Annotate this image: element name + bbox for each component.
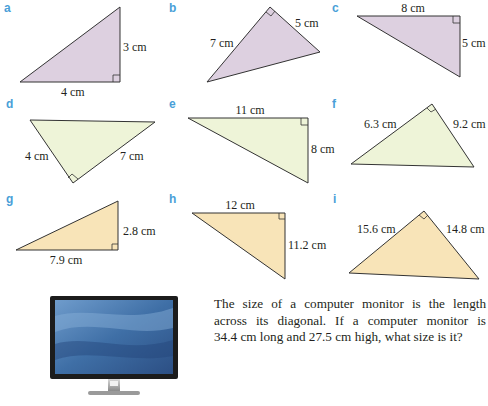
computer-monitor-image [48,294,180,400]
letter-g: g [6,192,13,206]
triangle-a: a 3 cm 4 cm [4,1,147,99]
side-label: 14.8 cm [446,222,485,236]
side-label: 7 cm [120,149,144,163]
side-label: 8 cm [401,1,425,15]
side-label: 7.9 cm [50,253,83,267]
letter-i: i [333,192,336,206]
letter-e: e [169,97,176,111]
letter-h: h [169,192,176,206]
side-label: 11.2 cm [288,238,327,252]
triangle-h: h 12 cm 11.2 cm [169,192,327,279]
triangle-b: b 7 cm 5 cm [169,1,320,82]
side-label: 9.2 cm [453,117,486,131]
side-label: 5 cm [295,16,319,30]
problem-line: 34.4 cm long and 27.5 cm high, what size… [214,329,486,346]
triangle-e: e 11 cm 8 cm [169,97,335,183]
triangle-f: f 6.3 cm 9.2 cm [332,97,486,167]
side-label: 4 cm [25,149,49,163]
side-label: 5 cm [462,36,486,50]
letter-b: b [169,1,176,15]
side-label: 15.6 cm [357,222,396,236]
monitor-base [88,391,140,395]
triangle-g: g 2.8 cm 7.9 cm [6,192,156,267]
side-label: 2.8 cm [123,224,156,238]
side-label: 8 cm [311,142,335,156]
triangle-d: d 4 cm 7 cm [6,97,155,183]
problem-line: across its diagonal. If a computer monit… [214,313,486,328]
side-label: 3 cm [123,40,147,54]
side-label: 4 cm [61,85,85,99]
triangle-i: i 15.6 cm 14.8 cm [333,192,485,279]
letter-a: a [4,1,11,15]
problem-text: The size of a computer monitor is the le… [214,296,486,346]
letter-f: f [332,97,337,111]
side-label: 6.3 cm [364,117,397,131]
letter-d: d [6,97,13,111]
side-label: 11 cm [235,103,265,117]
side-label: 12 cm [225,198,255,212]
monitor-screen [55,300,173,374]
letter-c: c [332,1,339,15]
problem-line: The size of a computer monitor is the le… [214,296,486,311]
side-label: 7 cm [210,36,234,50]
triangle-c: c 8 cm 5 cm [332,1,486,77]
